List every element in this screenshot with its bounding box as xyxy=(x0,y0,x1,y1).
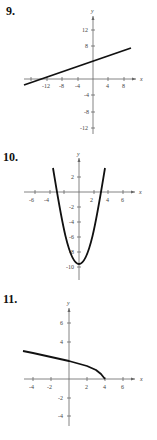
graph-10: x y -6-4 246 2-2-4 -6-8-10 xyxy=(0,140,157,280)
svg-text:4: 4 xyxy=(103,384,106,390)
svg-text:x: x xyxy=(138,189,142,195)
svg-text:-4: -4 xyxy=(84,92,89,98)
svg-text:y: y xyxy=(90,8,94,14)
svg-text:6: 6 xyxy=(121,384,124,390)
svg-text:2: 2 xyxy=(71,174,74,180)
svg-text:-2: -2 xyxy=(69,204,74,210)
svg-text:x: x xyxy=(139,76,143,82)
svg-text:4: 4 xyxy=(60,339,63,345)
svg-text:6: 6 xyxy=(60,320,63,326)
svg-text:y: y xyxy=(66,300,70,306)
svg-text:-8: -8 xyxy=(59,83,64,89)
svg-text:-4: -4 xyxy=(69,219,74,225)
svg-text:6: 6 xyxy=(121,197,124,203)
svg-text:-8: -8 xyxy=(84,109,89,115)
svg-text:-6: -6 xyxy=(29,197,34,203)
svg-text:-4: -4 xyxy=(75,83,80,89)
svg-text:-6: -6 xyxy=(69,234,74,240)
svg-text:-4: -4 xyxy=(29,384,34,390)
svg-text:-4: -4 xyxy=(44,197,49,203)
svg-text:-2: -2 xyxy=(58,395,63,401)
graph-11: x y -4-2 246 64 -2-4 xyxy=(0,280,157,440)
svg-text:-12: -12 xyxy=(42,83,50,89)
svg-text:-2: -2 xyxy=(47,384,52,390)
svg-text:4: 4 xyxy=(106,83,109,89)
svg-text:2: 2 xyxy=(85,384,88,390)
svg-text:-10: -10 xyxy=(66,264,74,270)
svg-text:-4: -4 xyxy=(58,413,63,419)
svg-text:4: 4 xyxy=(106,197,109,203)
svg-text:-12: -12 xyxy=(80,125,88,131)
svg-text:12: 12 xyxy=(82,27,88,33)
graph-9: x y -12-8-4 48 128 -4-8-12 xyxy=(0,0,157,140)
svg-text:2: 2 xyxy=(90,197,93,203)
svg-text:x: x xyxy=(139,376,143,382)
svg-text:8: 8 xyxy=(85,43,88,49)
svg-text:y: y xyxy=(76,151,80,157)
svg-text:8: 8 xyxy=(122,83,125,89)
